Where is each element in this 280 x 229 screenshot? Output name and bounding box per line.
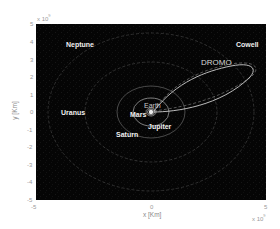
x-axis-label: x [Km] [143,211,161,218]
x-axis-multiplier: x 109 [252,213,266,222]
x-exp-power: 9 [263,213,265,218]
y-tick: 0 [30,109,33,115]
y-tick: -2 [27,144,32,150]
y-tick: 4 [30,39,33,45]
y-tick: 5 [30,21,33,27]
y-tick: 2 [30,74,33,80]
y-exp-power: 9 [48,13,50,18]
y-tick: -4 [27,179,32,185]
label-earth: Earth [144,102,161,109]
label-mars: Mars [130,111,146,118]
y-tick: -1 [27,127,32,133]
label-dromo: DROMO [201,58,232,67]
label-saturn: Saturn [116,131,138,138]
y-exp-base: x 10 [37,16,48,22]
x-tick: 0 [150,204,153,210]
label-jupiter: Jupiter [148,123,171,130]
y-tick: -5 [27,197,32,203]
y-tick: 3 [30,57,33,63]
x-exp-base: x 10 [252,216,263,222]
x-tick: -5 [31,204,36,210]
label-cowell: Cowell [236,41,259,48]
label-uranus: Uranus [61,109,85,116]
sun-marker [149,110,153,114]
y-tick: 1 [30,92,33,98]
label-neptune: Neptune [66,41,94,48]
figure: x 109 5 4 3 2 1 0 -1 -2 -3 -4 -5 y [Km] [0,0,280,229]
plot-area: Neptune Cowell DROMO Uranus Earth Mars J… [36,24,266,200]
y-axis-multiplier: x 109 [37,13,51,22]
y-axis-label: y [Km] [11,101,18,119]
y-tick: -3 [27,162,32,168]
x-tick: 5 [264,204,267,210]
